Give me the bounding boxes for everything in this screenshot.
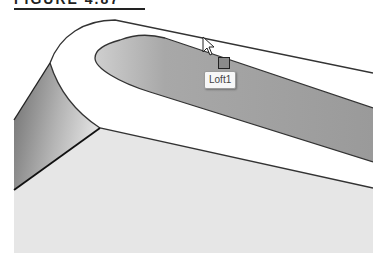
model-viewport[interactable] [0,0,373,278]
feature-tooltip: Loft1 [204,71,236,89]
mouse-cursor-icon [202,36,218,58]
loft-handle-icon[interactable] [218,57,230,69]
